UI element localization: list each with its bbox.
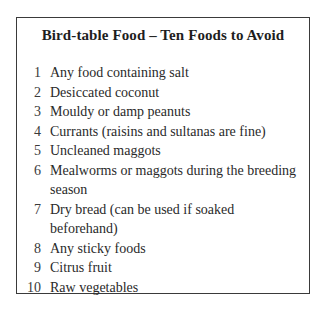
item-number: 8 bbox=[17, 239, 50, 259]
list-item: 1 Any food containing salt bbox=[17, 63, 309, 83]
panel-title: Bird-table Food – Ten Foods to Avoid bbox=[17, 27, 309, 44]
list-item: 7 Dry bread (can be used if soaked befor… bbox=[17, 200, 309, 239]
item-text: Mealworms or maggots during the breeding… bbox=[50, 161, 309, 200]
list-item: 9 Citrus fruit bbox=[17, 258, 309, 278]
list-item: 10 Raw vegetables bbox=[17, 278, 309, 298]
item-text: Desiccated coconut bbox=[50, 83, 309, 103]
list-item: 2 Desiccated coconut bbox=[17, 83, 309, 103]
foods-to-avoid-panel: Bird-table Food – Ten Foods to Avoid 1 A… bbox=[16, 17, 310, 294]
list-item: 6 Mealworms or maggots during the breedi… bbox=[17, 161, 309, 200]
item-text: Raw vegetables bbox=[50, 278, 309, 298]
item-text: Uncleaned maggots bbox=[50, 141, 309, 161]
foods-list: 1 Any food containing salt 2 Desiccated … bbox=[17, 63, 309, 297]
list-item: 3 Mouldy or damp peanuts bbox=[17, 102, 309, 122]
item-text: Currants (raisins and sultanas are fine) bbox=[50, 122, 309, 142]
item-number: 3 bbox=[17, 102, 50, 122]
list-item: 4 Currants (raisins and sultanas are fin… bbox=[17, 122, 309, 142]
list-item: 8 Any sticky foods bbox=[17, 239, 309, 259]
item-number: 10 bbox=[17, 278, 50, 298]
item-number: 7 bbox=[17, 200, 50, 239]
item-text: Citrus fruit bbox=[50, 258, 309, 278]
item-text: Mouldy or damp peanuts bbox=[50, 102, 309, 122]
item-text: Any food containing salt bbox=[50, 63, 309, 83]
item-text: Any sticky foods bbox=[50, 239, 309, 259]
item-number: 6 bbox=[17, 161, 50, 200]
item-number: 5 bbox=[17, 141, 50, 161]
item-number: 9 bbox=[17, 258, 50, 278]
item-number: 1 bbox=[17, 63, 50, 83]
item-number: 4 bbox=[17, 122, 50, 142]
item-number: 2 bbox=[17, 83, 50, 103]
item-text: Dry bread (can be used if soaked beforeh… bbox=[50, 200, 309, 239]
list-item: 5 Uncleaned maggots bbox=[17, 141, 309, 161]
